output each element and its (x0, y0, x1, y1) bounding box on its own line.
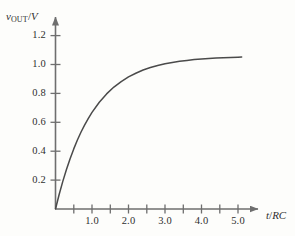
y-tick-label-0: 0.2 (14, 174, 46, 185)
x-axis-title: t/RC (266, 209, 286, 221)
data-series-curve (56, 57, 242, 209)
x-tick-label-0: 1.0 (76, 215, 108, 226)
x-axis-denominator: RC (272, 209, 286, 221)
chart-figure: vOUT/V t/RC 0.2 0.4 0.6 0.8 1.0 1.2 1.0 … (0, 0, 295, 236)
y-tick-label-2: 0.6 (14, 116, 46, 127)
x-tick-label-1: 2.0 (113, 215, 145, 226)
y-axis-unit: V (31, 10, 38, 22)
y-tick-label-4: 1.0 (14, 58, 46, 69)
y-tick-label-3: 0.8 (14, 87, 46, 98)
y-axis-title: vOUT/V (6, 10, 38, 24)
y-tick-label-5: 1.2 (14, 29, 46, 40)
y-axis-subscript: OUT (11, 15, 28, 24)
x-tick-label-3: 4.0 (186, 215, 218, 226)
y-tick-label-1: 0.4 (14, 145, 46, 156)
x-tick-label-2: 3.0 (149, 215, 181, 226)
x-tick-label-4: 5.0 (222, 215, 254, 226)
